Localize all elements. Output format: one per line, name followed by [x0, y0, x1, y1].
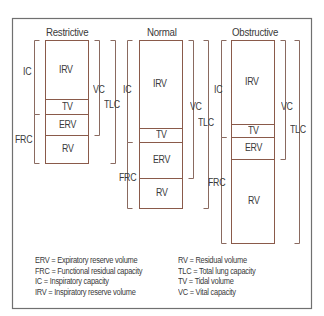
panel-title-obstructive: Obstructive	[232, 27, 278, 38]
restrictive-bracket-frc	[35, 115, 40, 164]
obstructive-bracket-label-frc: FRC	[208, 178, 225, 188]
lung-volumes-diagram: RestrictiveIRVTVERVRVICFRCVCTLCNormalIRV…	[0, 0, 324, 316]
restrictive-bracket-label-ic: IC	[23, 67, 31, 77]
panel-title-normal: Normal	[147, 27, 177, 38]
obstructive-bracket-tlc	[295, 41, 300, 244]
legend-item-tlc: TLC = Total lung capacity	[178, 266, 255, 277]
legend-left: ERV = Expiratory reserve volume FRC = Fu…	[35, 255, 142, 297]
normal-bracket-label-vc: VC	[190, 102, 202, 112]
obstructive-segment-erv: ERV	[245, 143, 262, 153]
restrictive-segment-tv: TV	[62, 102, 73, 112]
legend-right: RV = Residual volume TLC = Total lung ca…	[178, 255, 255, 297]
legend-item-rv: RV = Residual volume	[178, 255, 255, 266]
normal-segment-irv: IRV	[153, 79, 167, 89]
obstructive-bracket-frc	[222, 138, 227, 244]
legend-item-irv: IRV = Inspiratory reserve volume	[35, 287, 142, 298]
legend-item-vc: VC = Vital capacity	[178, 287, 255, 298]
legend-item-frc: FRC = Functional residual capacity	[35, 266, 142, 277]
restrictive-segment-irv: IRV	[59, 65, 73, 75]
obstructive-bracket-label-ic: IC	[214, 85, 222, 95]
obstructive-bracket-label-tlc: TLC	[290, 125, 306, 135]
restrictive-bracket-ic	[35, 41, 40, 115]
normal-bracket-label-frc: FRC	[119, 173, 136, 183]
panel-title-restrictive: Restrictive	[46, 27, 88, 38]
obstructive-segment-rv: RV	[248, 196, 260, 206]
obstructive-bracket-vc	[281, 41, 286, 160]
legend-item-tv: TV = Tidal volume	[178, 276, 255, 287]
restrictive-segment-erv: ERV	[59, 120, 76, 130]
restrictive-bracket-label-tlc: TLC	[104, 100, 120, 110]
restrictive-bracket-label-vc: VC	[93, 85, 105, 95]
normal-segment-rv: RV	[156, 188, 168, 198]
normal-bracket-label-ic: IC	[123, 85, 131, 95]
obstructive-segment-tv: TV	[248, 126, 259, 136]
obstructive-segment-irv: IRV	[245, 77, 259, 87]
normal-bracket-label-tlc: TLC	[198, 118, 214, 128]
restrictive-segment-rv: RV	[62, 144, 74, 154]
restrictive-bracket-label-frc: FRC	[15, 135, 32, 145]
normal-segment-tv: TV	[156, 130, 167, 140]
obstructive-bracket-label-vc: VC	[281, 102, 293, 112]
legend-item-ic: IC = Inspiratory capacity	[35, 276, 142, 287]
normal-segment-erv: ERV	[153, 155, 170, 165]
normal-bar	[140, 41, 183, 209]
legend-item-erv: ERV = Expiratory reserve volume	[35, 255, 142, 266]
